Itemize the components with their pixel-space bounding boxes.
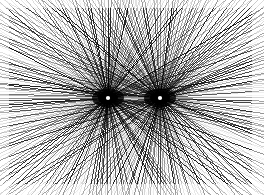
focus-core-dot [158, 96, 162, 100]
ray-burst-figure [0, 0, 264, 195]
artwork-canvas [0, 0, 264, 195]
focus-core-dot [106, 96, 110, 100]
